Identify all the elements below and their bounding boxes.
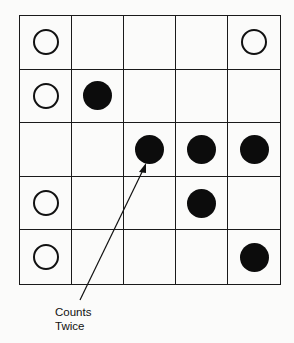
label-line-1: Counts bbox=[55, 305, 91, 319]
counts-twice-label: Counts Twice bbox=[55, 305, 91, 333]
annotation-arrow bbox=[0, 0, 294, 343]
label-line-2: Twice bbox=[55, 319, 91, 333]
